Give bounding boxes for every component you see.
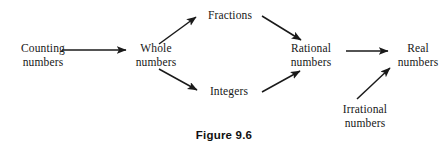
node-whole-numbers-line1: Whole — [126, 42, 186, 56]
node-real-numbers-line2: numbers — [392, 56, 444, 70]
node-whole-numbers: Whole numbers — [126, 42, 186, 69]
node-fractions-line1: Fractions — [200, 9, 260, 23]
node-integers-line1: Integers — [200, 85, 258, 99]
edge-whole-to-integers — [159, 69, 197, 90]
node-fractions: Fractions — [200, 9, 260, 23]
edge-whole-to-fractions — [159, 17, 196, 44]
node-counting-numbers: Counting numbers — [6, 42, 80, 69]
edge-fractions-to-rational — [262, 16, 301, 40]
node-real-numbers-line1: Real — [392, 42, 444, 56]
node-integers: Integers — [200, 85, 258, 99]
node-rational-numbers-line2: numbers — [280, 56, 342, 70]
node-irrational-numbers-line2: numbers — [330, 117, 400, 131]
node-counting-numbers-line1: Counting — [6, 42, 80, 56]
node-whole-numbers-line2: numbers — [126, 56, 186, 70]
node-rational-numbers-line1: Rational — [280, 42, 342, 56]
edge-integers-to-rational — [262, 71, 300, 92]
node-counting-numbers-line2: numbers — [6, 56, 80, 70]
number-systems-figure: Counting numbers Whole numbers Fractions… — [0, 0, 448, 157]
node-irrational-numbers: Irrational numbers — [330, 103, 400, 130]
figure-caption: Figure 9.6 — [0, 129, 448, 141]
node-rational-numbers: Rational numbers — [280, 42, 342, 69]
edge-irrational-to-real — [357, 68, 390, 99]
node-real-numbers: Real numbers — [392, 42, 444, 69]
node-irrational-numbers-line1: Irrational — [330, 103, 400, 117]
